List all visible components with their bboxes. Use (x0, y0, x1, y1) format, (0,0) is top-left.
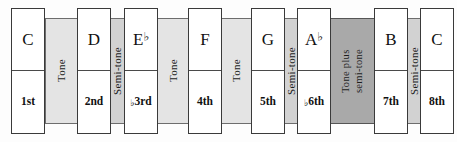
note-box-4: F 4th (188, 8, 222, 134)
note-degree-4: 4th (189, 71, 221, 133)
note-box-8: C 8th (420, 8, 454, 134)
note-degree-3: ♭3rd (125, 71, 157, 133)
interval-label-1: Tone (55, 59, 68, 82)
interval-box-5: Semi-tone (284, 18, 298, 124)
note-box-2: D 2nd (77, 8, 111, 134)
note-box-7: B 7th (374, 8, 408, 134)
note-name-3: E♭ (125, 9, 157, 71)
note-box-6: A♭ ♭6th (297, 8, 331, 134)
note-name-6: A♭ (298, 9, 330, 71)
interval-label-4: Tone (230, 59, 243, 82)
interval-box-6: Tone plus semi-tone (330, 18, 375, 124)
interval-box-2: Semi-tone (110, 18, 125, 124)
note-degree-1: 1st (12, 71, 44, 133)
note-name-4: F (189, 9, 221, 71)
note-degree-8: 8th (421, 71, 453, 133)
interval-box-1: Tone (45, 18, 78, 124)
note-degree-2: 2nd (78, 71, 110, 133)
note-name-8: C (421, 9, 453, 71)
flat-symbol-icon: ♭ (304, 99, 308, 108)
note-name-7: B (375, 9, 407, 71)
note-name-2: D (78, 9, 110, 71)
flat-symbol-icon: ♭ (143, 32, 149, 44)
scale-interval-diagram: C 1st D 2nd E♭ ♭3rd F 4th G (0, 0, 457, 142)
interval-label-6: Tone plus semi-tone (340, 49, 365, 93)
note-box-3: E♭ ♭3rd (124, 8, 158, 134)
interval-box-4: Tone (221, 18, 252, 124)
note-box-5: G 5th (251, 8, 285, 134)
note-degree-6: ♭6th (298, 71, 330, 133)
note-name-1: C (12, 9, 44, 71)
interval-box-3: Tone (157, 18, 189, 124)
note-name-5: G (252, 9, 284, 71)
note-degree-7: 7th (375, 71, 407, 133)
note-box-1: C 1st (11, 8, 45, 134)
flat-symbol-icon: ♭ (130, 99, 134, 108)
note-degree-5: 5th (252, 71, 284, 133)
flat-symbol-icon: ♭ (317, 32, 323, 44)
interval-label-7: Semi-tone (408, 47, 421, 95)
interval-label-3: Tone (167, 59, 180, 82)
interval-label-2: Semi-tone (111, 47, 124, 95)
interval-label-5: Semi-tone (285, 47, 298, 95)
interval-box-7: Semi-tone (407, 18, 421, 124)
